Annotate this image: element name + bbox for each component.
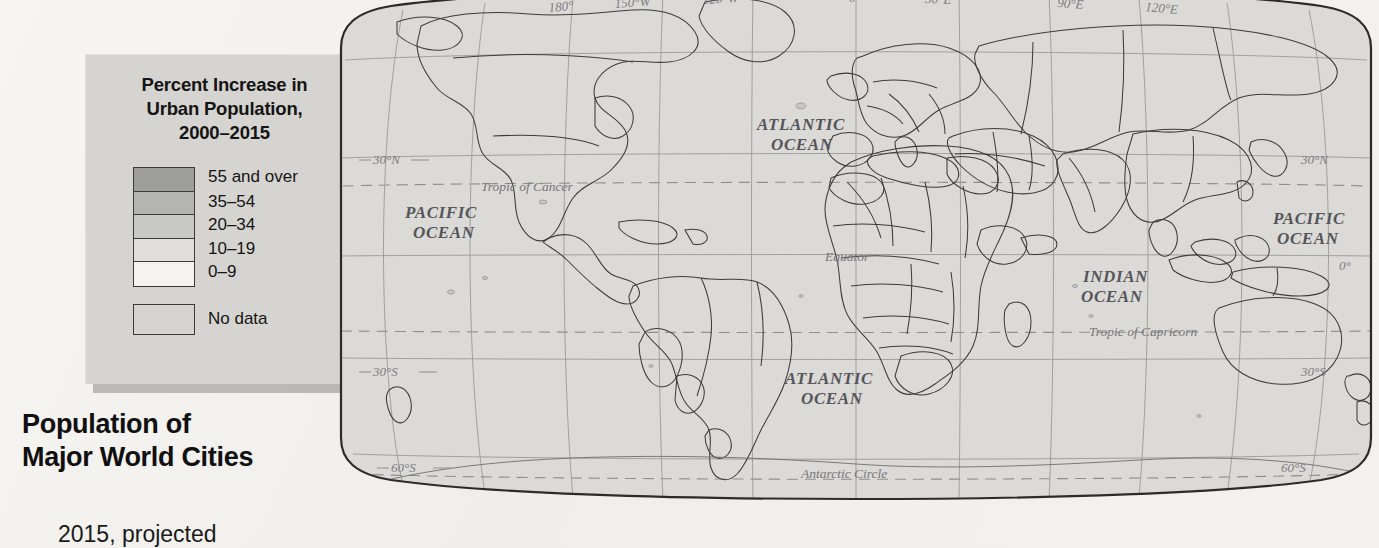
label-antarctic-circle: Antarctic Circle — [800, 466, 887, 481]
svg-text:OCEAN: OCEAN — [1081, 287, 1143, 306]
legend-title-line-1: Percent Increase in — [100, 73, 349, 97]
legend-title-line-3: 2000–2015 — [100, 121, 349, 145]
legend-swatch-0-9 — [134, 262, 194, 286]
svg-text:OCEAN: OCEAN — [801, 389, 863, 408]
page-title-line-1: Population of — [22, 408, 322, 441]
latitude-label-left-30n: 30°N — [372, 152, 401, 167]
legend-label-55-and-over: 55 and over — [208, 167, 298, 187]
svg-text:OCEAN: OCEAN — [771, 135, 833, 154]
map-legend: Percent Increase in Urban Population, 20… — [85, 54, 363, 384]
longitude-label-0: 0° — [849, 0, 861, 5]
legend-label-10-19: 10–19 — [208, 239, 255, 259]
page-subtitle: 2015, projected — [58, 521, 358, 548]
legend-label-no-data: No data — [208, 309, 268, 329]
legend-swatch-10-19 — [134, 239, 194, 263]
latitude-label-right-30n: 30°N — [1300, 152, 1329, 167]
svg-text:INDIAN: INDIAN — [1082, 267, 1148, 286]
legend-title-line-2: Urban Population, — [100, 97, 349, 121]
svg-text:PACIFIC: PACIFIC — [1272, 209, 1345, 228]
latitude-label-right-60s: 60°S — [1281, 460, 1306, 475]
svg-text:ATLANTIC: ATLANTIC — [756, 115, 845, 134]
latitude-label-right-30s: 30°S — [1300, 364, 1326, 379]
legend-swatch-35-54 — [134, 192, 194, 216]
latitude-label-right-0: 0° — [1339, 258, 1351, 273]
map-credit: © MapQuest.com, Inc. — [1029, 510, 1144, 522]
svg-text:ATLANTIC: ATLANTIC — [784, 369, 873, 388]
legend-label-0-9: 0–9 — [208, 262, 236, 282]
legend-swatch-55-and-over — [134, 168, 194, 192]
longitude-label-120e: 120°E — [1145, 0, 1179, 17]
label-equator: Equator — [824, 249, 870, 264]
legend-inner: Percent Increase in Urban Population, 20… — [86, 55, 363, 384]
legend-label-20-34: 20–34 — [208, 215, 255, 235]
legend-swatch-no-data — [133, 304, 195, 335]
legend-title: Percent Increase in Urban Population, 20… — [100, 73, 349, 145]
label-tropic-of-capricorn: Tropic of Capricorn — [1089, 324, 1198, 339]
legend-swatch-20-34 — [134, 215, 194, 239]
latitude-label-left-60s: 60°S — [391, 460, 416, 475]
world-map: 180° 150°W 120°W 0° 30°E 90°E 120°E 30°N… — [333, 0, 1379, 548]
legend-swatch-stack — [133, 167, 195, 287]
svg-text:OCEAN: OCEAN — [1277, 229, 1339, 248]
ocean-label-indian: INDIAN OCEAN — [1081, 267, 1148, 306]
svg-text:OCEAN: OCEAN — [413, 223, 475, 242]
page-title: Population of Major World Cities — [22, 408, 322, 474]
longitude-label-30e: 30°E — [924, 0, 952, 7]
longitude-label-90e: 90°E — [1057, 0, 1084, 12]
svg-text:PACIFIC: PACIFIC — [404, 203, 477, 222]
page-title-line-2: Major World Cities — [22, 441, 322, 474]
longitude-label-180: 180° — [548, 0, 574, 15]
label-tropic-of-cancer: Tropic of Cancer — [481, 179, 573, 194]
ocean-label-pacific-left: PACIFIC OCEAN — [404, 203, 477, 242]
ocean-label-pacific-right: PACIFIC OCEAN — [1272, 209, 1345, 248]
latitude-label-left-30s: 30°S — [372, 364, 398, 379]
legend-label-35-54: 35–54 — [208, 192, 255, 212]
